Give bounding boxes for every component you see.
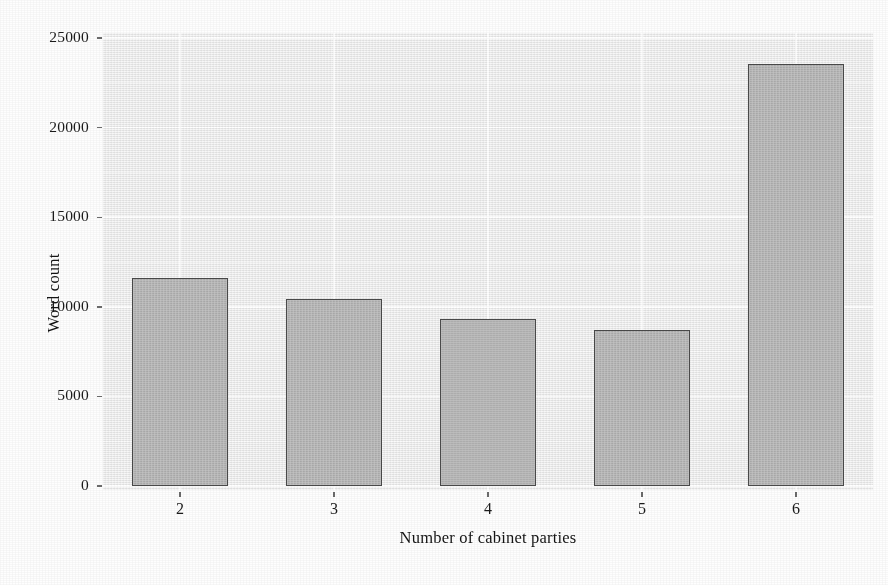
y-tick-label: 5000 — [0, 386, 89, 404]
y-tick-label: 0 — [0, 476, 89, 494]
x-tick-mark — [487, 492, 489, 497]
bar-3 — [286, 299, 381, 486]
bar-texture — [287, 300, 380, 485]
y-tick-mark — [97, 37, 102, 39]
x-axis-title: Number of cabinet parties — [103, 528, 873, 548]
bar-4 — [440, 319, 535, 486]
bar-5 — [594, 330, 689, 486]
x-tick-label: 4 — [448, 500, 528, 518]
bar-2 — [132, 278, 227, 486]
bar-6 — [748, 64, 843, 486]
y-axis-title: Word count — [44, 253, 64, 332]
y-tick-mark — [97, 306, 102, 308]
plot-panel — [103, 33, 873, 490]
y-tick-mark — [97, 485, 102, 487]
bar-texture — [595, 331, 688, 485]
bar-texture — [133, 279, 226, 485]
x-tick-label: 6 — [756, 500, 836, 518]
x-tick-mark — [795, 492, 797, 497]
figure-caption-strip — [0, 566, 888, 585]
x-tick-label: 2 — [140, 500, 220, 518]
y-tick-mark — [97, 127, 102, 129]
x-tick-mark — [179, 492, 181, 497]
bar-texture — [441, 320, 534, 485]
bars-layer — [103, 33, 873, 490]
page-canvas: 0500010000150002000025000 23456 Word cou… — [0, 0, 888, 585]
bar-chart-figure: 0500010000150002000025000 23456 Word cou… — [0, 0, 888, 585]
x-tick-mark — [641, 492, 643, 497]
y-tick-label: 15000 — [0, 207, 89, 225]
y-tick-label: 25000 — [0, 28, 89, 46]
y-tick-label: 20000 — [0, 118, 89, 136]
x-tick-label: 3 — [294, 500, 374, 518]
y-tick-mark — [97, 396, 102, 398]
x-tick-mark — [333, 492, 335, 497]
y-tick-mark — [97, 217, 102, 219]
bar-texture — [749, 65, 842, 485]
x-tick-label: 5 — [602, 500, 682, 518]
